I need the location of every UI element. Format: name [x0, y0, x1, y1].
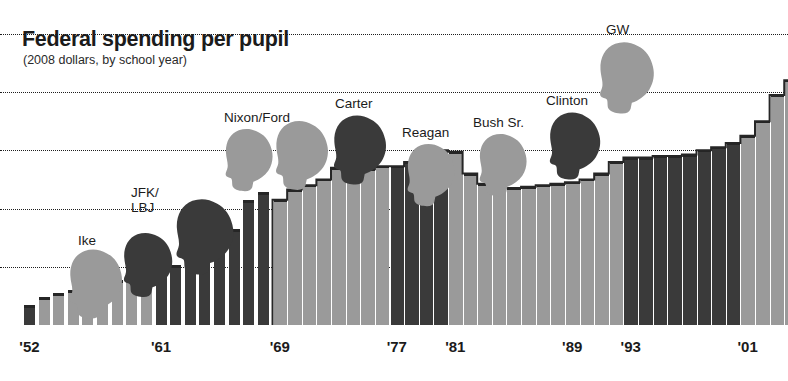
- x-tick-label: '89: [562, 338, 582, 355]
- president-label: Reagan: [402, 125, 449, 140]
- bar-cap: [741, 136, 755, 138]
- bar: [770, 95, 785, 325]
- x-tick-label: '81: [445, 338, 465, 355]
- bar: [243, 200, 254, 325]
- bar: [623, 158, 638, 325]
- bar: [784, 80, 788, 325]
- bar: [287, 190, 302, 325]
- president-label: Nixon/Ford: [224, 110, 290, 125]
- x-tick-label: '61: [151, 338, 171, 355]
- bar-cap: [537, 185, 551, 187]
- president-label: JFK/ LBJ: [131, 185, 159, 215]
- gridline: [0, 34, 788, 35]
- bar: [726, 143, 741, 325]
- bar: [580, 179, 595, 325]
- bar: [346, 174, 361, 325]
- bar: [375, 166, 390, 325]
- president-label: Carter: [335, 96, 373, 111]
- bar-cap: [243, 200, 254, 203]
- bar: [711, 147, 726, 325]
- bar: [594, 174, 609, 325]
- bar-cap: [639, 158, 653, 160]
- x-tick-label: '77: [387, 338, 407, 355]
- gridline: [0, 150, 788, 151]
- bar-cap: [698, 150, 712, 152]
- bar-cap: [391, 166, 405, 168]
- bar: [521, 187, 536, 325]
- president-silhouette-icon: [404, 143, 460, 209]
- x-tick-label: '69: [270, 338, 290, 355]
- bar: [609, 162, 624, 325]
- x-tick-label: '01: [738, 338, 758, 355]
- bar-cap: [771, 95, 785, 97]
- bar: [536, 185, 551, 325]
- bar: [638, 158, 653, 325]
- bar-cap: [39, 297, 50, 300]
- bar: [506, 188, 521, 325]
- bar: [316, 179, 331, 325]
- bar: [682, 155, 697, 325]
- bar-cap: [654, 156, 668, 158]
- bar-cap: [756, 121, 770, 123]
- bar: [39, 297, 50, 325]
- president-silhouette-icon: [476, 133, 532, 199]
- chart-plot-area: IkeJFK/ LBJNixon/FordCarterReaganBush Sr…: [0, 0, 720, 340]
- president-silhouette-icon: [272, 120, 334, 193]
- x-tick-label: '93: [621, 338, 641, 355]
- bar: [463, 174, 478, 325]
- bar: [755, 121, 770, 325]
- president-silhouette-icon: [66, 248, 128, 322]
- president-silhouette-icon: [330, 114, 392, 188]
- bar: [492, 188, 507, 325]
- bar-cap: [727, 143, 741, 145]
- bar: [697, 150, 712, 325]
- bar: [360, 169, 375, 325]
- bar: [258, 192, 269, 325]
- bar-cap: [712, 147, 726, 149]
- bar: [24, 305, 35, 325]
- president-label: Clinton: [546, 93, 588, 108]
- bar: [53, 293, 64, 325]
- bar: [390, 166, 405, 325]
- president-label: GW: [606, 22, 629, 37]
- bar: [653, 156, 668, 325]
- bar-cap: [624, 158, 638, 160]
- bar: [550, 184, 565, 325]
- bar-cap: [668, 156, 682, 158]
- bar: [302, 185, 317, 325]
- bar-cap: [274, 200, 288, 202]
- bar: [477, 184, 492, 325]
- bar: [740, 136, 755, 325]
- x-tick-label: '52: [19, 338, 39, 355]
- bar: [667, 156, 682, 325]
- bar: [565, 182, 580, 325]
- president-silhouette-icon: [222, 128, 278, 194]
- bar-cap: [24, 305, 35, 308]
- president-label: Ike: [78, 233, 96, 248]
- president-silhouette-icon: [596, 40, 660, 118]
- bar-cap: [53, 293, 64, 296]
- president-silhouette-icon: [120, 232, 178, 300]
- president-silhouette-icon: [172, 198, 240, 278]
- bar-cap: [551, 184, 565, 186]
- bar: [273, 200, 288, 325]
- gridline: [0, 92, 788, 93]
- infographic-chart: Federal spending per pupil (2008 dollars…: [0, 0, 788, 381]
- bar-cap: [683, 155, 697, 157]
- president-label: Bush Sr.: [473, 115, 524, 130]
- president-silhouette-icon: [546, 111, 606, 183]
- bar-cap: [610, 162, 624, 164]
